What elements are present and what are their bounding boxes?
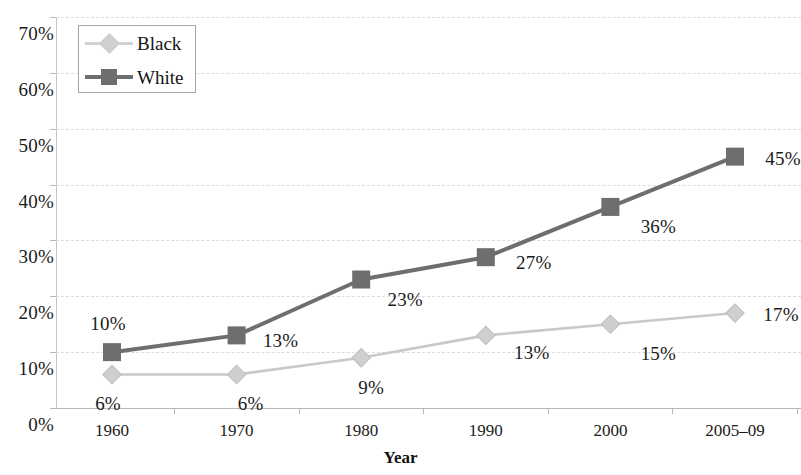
data-point-label: 23%: [387, 289, 422, 311]
gridline: [56, 352, 801, 353]
data-point-label: 10%: [90, 313, 125, 335]
y-axis-tick-label: 70%: [0, 23, 54, 45]
legend-swatch-white: [83, 67, 135, 87]
x-axis-tick: [299, 408, 300, 414]
y-axis-tick: [50, 296, 56, 297]
y-axis-tick: [50, 185, 56, 186]
legend-item-white[interactable]: White: [79, 60, 195, 94]
x-axis-tick: [672, 408, 673, 414]
legend-label-black: Black: [137, 34, 181, 53]
data-point-label: 6%: [238, 393, 264, 415]
y-axis-tick-label: 50%: [0, 135, 54, 157]
x-axis-tick-label: 2005–09: [705, 421, 765, 441]
chart-container: 0%10%20%30%40%50%60%70% 6%6%9%13%15%17%1…: [0, 0, 801, 475]
data-point-label: 36%: [641, 216, 676, 238]
y-axis-tick: [50, 17, 56, 18]
data-point-label: 13%: [263, 330, 298, 352]
square-icon: [101, 69, 117, 85]
x-axis-tick-label: 2000: [593, 421, 627, 441]
data-point-label: 9%: [358, 377, 384, 399]
y-axis-tick-label: 10%: [0, 358, 54, 380]
x-axis-tick-label: 1980: [344, 421, 378, 441]
x-axis-tick: [548, 408, 549, 414]
x-axis-tick: [174, 408, 175, 414]
data-point-label: 17%: [763, 304, 798, 326]
y-axis-tick-label: 20%: [0, 302, 54, 324]
legend-swatch-black: [83, 33, 135, 53]
y-axis-tick: [50, 352, 56, 353]
x-axis-tick: [797, 408, 798, 414]
x-axis-tick-label: 1960: [95, 421, 129, 441]
data-point-label: 15%: [641, 343, 676, 365]
x-axis-title: Year: [0, 448, 801, 468]
gridline: [56, 296, 801, 297]
gridline: [56, 240, 801, 241]
gridline: [56, 185, 801, 186]
legend-label-white: White: [137, 68, 183, 87]
y-axis-tick-label: 0%: [0, 414, 54, 436]
legend: Black White: [78, 25, 196, 93]
y-axis-tick: [50, 408, 56, 409]
data-point-label: 45%: [765, 148, 800, 170]
gridline: [56, 17, 801, 18]
data-point-label: 27%: [516, 252, 551, 274]
x-axis-tick-label: 1990: [469, 421, 503, 441]
legend-item-black[interactable]: Black: [79, 26, 195, 60]
diamond-icon: [98, 32, 119, 53]
data-point-label: 13%: [514, 342, 549, 364]
x-axis-tick-label: 1970: [220, 421, 254, 441]
x-axis-tick: [423, 408, 424, 414]
y-axis-tick: [50, 73, 56, 74]
y-axis-tick-label: 60%: [0, 79, 54, 101]
gridline: [56, 129, 801, 130]
y-axis-tick-label: 30%: [0, 246, 54, 268]
x-axis-line: [56, 408, 801, 409]
y-axis-tick: [50, 240, 56, 241]
y-axis-tick: [50, 129, 56, 130]
data-point-label: 6%: [95, 393, 121, 415]
y-axis-tick-label: 40%: [0, 191, 54, 213]
